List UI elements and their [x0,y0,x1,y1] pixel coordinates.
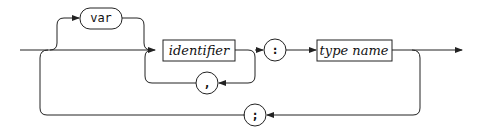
comma-label: , [203,76,210,90]
semicolon-loop-left [40,50,245,115]
var-branch-in [50,18,79,50]
semicolon-label: ; [251,108,258,122]
semicolon-loop-right [267,50,420,115]
colon-label: : [271,43,278,57]
identifier-label: identifier [169,43,230,58]
typename-label: type name [320,43,389,58]
railroad-diagram: var identifier , : type name ; [0,0,479,133]
var-label: var [90,11,112,25]
var-branch-out [122,18,151,50]
